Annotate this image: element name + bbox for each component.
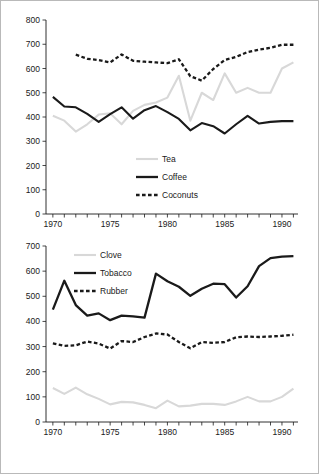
chart-panel-bottom: 0100200300400500600700197019751980198519… <box>1 233 319 473</box>
series-line-coconuts <box>76 45 294 81</box>
y-axis-tick-label: 100 <box>26 185 40 195</box>
y-axis-tick-label: 400 <box>26 112 40 122</box>
y-axis-tick-label: 600 <box>26 64 40 74</box>
x-axis-tick-label: 1985 <box>215 427 234 437</box>
y-axis-tick-label: 300 <box>26 342 40 352</box>
y-axis-tick-label: 0 <box>35 417 40 427</box>
y-axis-tick-label: 500 <box>26 291 40 301</box>
legend-label-coconuts[interactable]: Coconuts <box>162 190 198 200</box>
y-axis-tick-label: 800 <box>26 15 40 25</box>
y-axis-tick-label: 500 <box>26 88 40 98</box>
y-axis-tick-label: 0 <box>35 209 40 219</box>
y-axis-tick-label: 300 <box>26 136 40 146</box>
x-axis-tick-label: 1970 <box>43 219 62 229</box>
series-line-coffee <box>53 97 294 134</box>
x-axis-tick-label: 1975 <box>101 427 120 437</box>
line-chart-bottom[interactable]: 0100200300400500600700197019751980198519… <box>1 233 319 473</box>
legend-label-tea[interactable]: Tea <box>162 154 176 164</box>
legend-label-tobacco[interactable]: Tobacco <box>100 268 132 278</box>
legend-label-clove[interactable]: Clove <box>100 250 122 260</box>
series-line-tobacco <box>53 256 294 320</box>
x-axis-tick-label: 1985 <box>215 219 234 229</box>
legend-label-rubber[interactable]: Rubber <box>100 286 128 296</box>
line-chart-top[interactable]: 0100200300400500600700800197019751980198… <box>1 3 319 233</box>
y-axis-tick-label: 200 <box>26 161 40 171</box>
figure-container: 0100200300400500600700800197019751980198… <box>0 0 319 474</box>
x-axis-tick-label: 1975 <box>101 219 120 229</box>
y-axis-tick-label: 200 <box>26 367 40 377</box>
series-line-clove <box>53 388 294 409</box>
y-axis-tick-label: 700 <box>26 39 40 49</box>
legend-label-coffee[interactable]: Coffee <box>162 172 187 182</box>
y-axis-tick-label: 700 <box>26 241 40 251</box>
x-axis-tick-label: 1970 <box>43 427 62 437</box>
x-axis-tick-label: 1980 <box>158 427 177 437</box>
x-axis-tick-label: 1980 <box>158 219 177 229</box>
y-axis-tick-label: 600 <box>26 266 40 276</box>
y-axis-tick-label: 400 <box>26 316 40 326</box>
series-line-rubber <box>53 334 294 349</box>
y-axis-tick-label: 100 <box>26 392 40 402</box>
x-axis-tick-label: 1990 <box>273 427 292 437</box>
chart-panel-top: 0100200300400500600700800197019751980198… <box>1 3 319 233</box>
x-axis-tick-label: 1990 <box>273 219 292 229</box>
